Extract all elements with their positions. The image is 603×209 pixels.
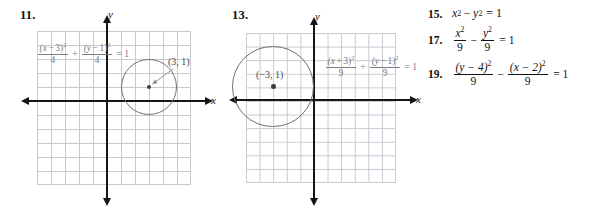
problem-13-fraction-2: (y−1)2 9 — [370, 56, 401, 79]
problem-13-number: 13. — [232, 8, 248, 23]
problem-11-fraction-2: (y−1)2 4 — [82, 43, 113, 66]
p13-num2-base: (y — [372, 56, 379, 66]
problem-11-equation: (x−3)2 4 + (y−1)2 4 = 1 — [36, 43, 131, 66]
a19-fraction-1: (y − 4)2 9 — [454, 61, 494, 88]
p11-den1: 4 — [38, 54, 69, 66]
answer-17-number: 17. — [428, 34, 452, 46]
a19-d2: 9 — [508, 74, 548, 88]
a19-n2: (x − 2) — [510, 61, 542, 73]
answer-15-equation: x2 − y2 = 1 — [452, 6, 502, 21]
p11-den2: 4 — [82, 54, 113, 66]
answer-row-17: 17. x2 9 − y2 9 = 1 — [428, 27, 603, 54]
problem-11-center-label: (3, 1) — [168, 56, 190, 67]
a19-fraction-2: (x − 2)2 9 — [508, 61, 548, 88]
a19-d1: 9 — [454, 74, 494, 88]
answer-15-number: 15. — [428, 8, 452, 20]
p13-equals: = 1 — [404, 62, 416, 72]
answer-19-equation: (y − 4)2 9 − (x − 2)2 9 = 1 — [452, 61, 568, 88]
a19-op: − — [497, 68, 504, 80]
problem-11-panel: 11. x y (3, 1) — [0, 0, 228, 209]
problem-13-panel: 13. x y (−3, 1) (x+3)2 9 + — [228, 0, 428, 209]
a17-fraction-2: y2 9 — [481, 27, 494, 54]
problem-11-fraction-1: (x−3)2 4 — [38, 43, 69, 66]
answer-column: 15. x2 − y2 = 1 17. x2 9 − y2 9 = — [428, 6, 603, 92]
answer-19-number: 19. — [428, 68, 452, 80]
problem-11-radius-arrow — [0, 0, 228, 209]
answer-17-equation: x2 9 − y2 9 = 1 — [452, 27, 514, 54]
p11-equals: = 1 — [116, 49, 128, 59]
p11-num1-val: 3) — [55, 43, 63, 53]
answer-key-page: 11. x y (3, 1) — [0, 0, 603, 209]
a17-d2: 9 — [481, 40, 494, 54]
a19-equals: = 1 — [553, 68, 568, 80]
a17-op: − — [470, 34, 477, 46]
a17-equals: = 1 — [499, 34, 514, 46]
a17-n2-exp: 2 — [488, 25, 492, 34]
a17-d1: 9 — [454, 40, 467, 54]
p11-num2-base: (y — [84, 43, 91, 53]
p11-num2-exp: 2 — [107, 41, 110, 48]
p13-num2-op: − — [381, 56, 386, 66]
a19-n2-exp: 2 — [542, 59, 546, 68]
p11-num2-op: − — [93, 43, 98, 53]
answer-row-19: 19. (y − 4)2 9 − (x − 2)2 9 = 1 — [428, 61, 603, 88]
p13-num1-op: + — [336, 56, 341, 66]
problem-13-equation: (x+3)2 9 + (y−1)2 9 = 1 — [324, 56, 419, 79]
a19-n1: (y − 4) — [456, 61, 488, 73]
a15-op: − — [464, 6, 471, 21]
problem-13-y-axis-label: y — [315, 10, 320, 22]
problem-13-center-dot — [271, 84, 276, 89]
a15-equals: = 1 — [486, 6, 502, 21]
a17-fraction-1: x2 9 — [454, 27, 467, 54]
answer-row-15: 15. x2 − y2 = 1 — [428, 6, 603, 21]
p11-num1-op: − — [48, 43, 53, 53]
a19-n1-exp: 2 — [488, 59, 492, 68]
p13-num2-exp: 2 — [395, 54, 398, 61]
problem-13-center-label: (−3, 1) — [256, 69, 283, 80]
p13-num1-val: 3) — [343, 56, 351, 66]
p13-num1-base: (x — [328, 56, 335, 66]
p13-plus: + — [360, 62, 365, 72]
a17-n1-exp: 2 — [461, 25, 465, 34]
problem-13-y-axis — [313, 24, 315, 200]
p13-num1-exp: 2 — [351, 54, 354, 61]
problem-13-y-axis-arrow-down — [310, 198, 318, 206]
p11-plus: + — [72, 49, 77, 59]
p13-den1: 9 — [326, 67, 357, 79]
problem-13-fraction-1: (x+3)2 9 — [326, 56, 357, 79]
problem-13-x-axis-label: x — [416, 93, 421, 105]
p13-den2: 9 — [370, 67, 401, 79]
p11-num1-base: (x — [40, 43, 47, 53]
p11-num1-exp: 2 — [63, 41, 66, 48]
